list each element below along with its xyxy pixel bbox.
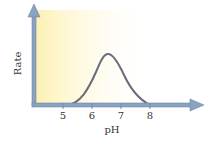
chart-container: 5 6 7 8 pH Rate: [0, 0, 219, 144]
x-tick-6: 6: [89, 110, 95, 121]
x-axis-label: pH: [104, 124, 119, 135]
chart-plot: [0, 0, 219, 144]
x-tick-7: 7: [118, 110, 124, 121]
plot-background: [34, 10, 154, 105]
y-axis-label: Rate: [12, 52, 23, 76]
x-tick-5: 5: [60, 110, 66, 121]
x-tick-8: 8: [147, 110, 153, 121]
x-axis-arrow-icon: [190, 99, 204, 111]
